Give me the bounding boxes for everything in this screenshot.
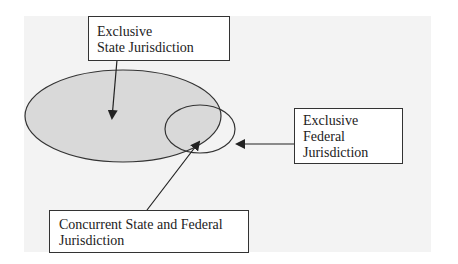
concurrent-jurisdiction-label: Concurrent State and Federal Jurisdictio… bbox=[49, 210, 249, 253]
federal-jurisdiction-label: Exclusive Federal Jurisdiction bbox=[294, 108, 403, 164]
federal-label-line1: Exclusive bbox=[303, 113, 402, 129]
concurrent-label-line2: Jurisdiction bbox=[59, 233, 248, 249]
state-label-line2: State Jurisdiction bbox=[97, 40, 229, 56]
state-jurisdiction-label: Exclusive State Jurisdiction bbox=[88, 16, 230, 61]
state-jurisdiction-ellipse bbox=[25, 70, 221, 162]
federal-label-line2: Federal bbox=[303, 129, 402, 145]
state-label-line1: Exclusive bbox=[97, 24, 229, 40]
federal-label-line3: Jurisdiction bbox=[303, 145, 402, 161]
concurrent-label-line1: Concurrent State and Federal bbox=[59, 217, 248, 233]
